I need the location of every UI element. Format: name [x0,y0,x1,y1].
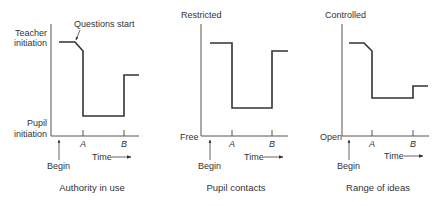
chart-range-of-ideas: Controlled Open A B Begin Time Range of … [320,10,429,193]
y-bottom-label-line2: initiation [14,129,47,139]
time-label: Time [244,152,264,162]
axes [342,24,429,136]
data-line [210,43,288,108]
tick-a-label: A [368,139,375,149]
caption: Range of ideas [346,182,410,193]
annotation-arrow-icon [76,30,80,40]
data-line [349,43,428,98]
y-bottom-label-line1: Pupil [27,118,47,128]
axes [51,24,139,136]
y-top-label-line2: initiation [14,38,47,48]
y-top-label: Restricted [181,10,222,20]
axes [201,24,288,136]
begin-label: Begin [198,161,221,171]
tick-a-label: A [79,139,86,149]
y-top-label: Controlled [325,10,366,20]
time-label: Time [384,151,404,161]
chart-authority-in-use: Teacher initiation Pupil initiation Ques… [14,19,139,193]
time-label: Time [92,152,112,162]
begin-label: Begin [47,161,70,171]
diagram-canvas: Teacher initiation Pupil initiation Ques… [0,0,442,206]
y-bottom-label: Open [320,132,342,142]
tick-b-label: B [121,139,127,149]
caption: Pupil contacts [206,182,265,193]
y-top-label-line1: Teacher [15,28,47,38]
y-bottom-label: Free [180,132,199,142]
chart-pupil-contacts: Restricted Free A B Begin Time Pupil con… [180,10,288,193]
caption: Authority in use [59,182,124,193]
data-line [59,42,139,116]
tick-b-label: B [269,139,275,149]
begin-label: Begin [337,161,360,171]
tick-b-label: B [410,139,416,149]
annotation-questions-start: Questions start [74,19,135,29]
tick-a-label: A [228,139,235,149]
